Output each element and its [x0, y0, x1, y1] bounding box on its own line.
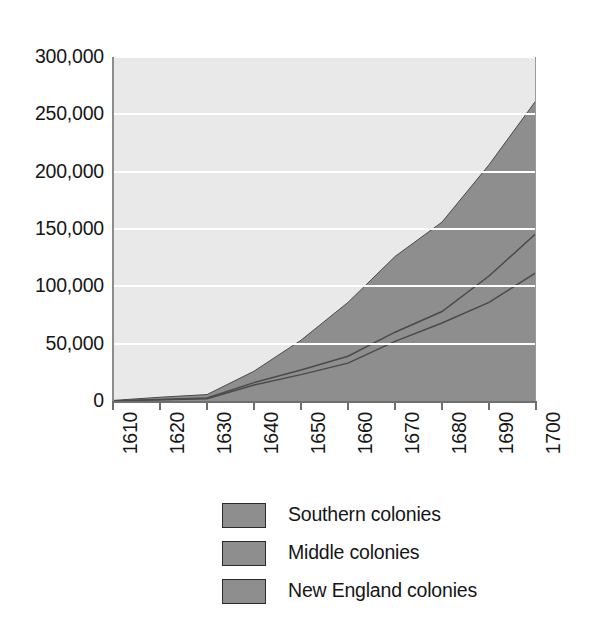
- gridline: [113, 228, 536, 230]
- chart-legend: Southern coloniesMiddle coloniesNew Engl…: [222, 496, 477, 610]
- gridline: [113, 285, 536, 287]
- x-axis-tick-mark: [394, 401, 395, 410]
- gridline: [113, 343, 536, 345]
- x-axis-tick-mark: [488, 401, 489, 410]
- x-axis-tick-mark: [112, 401, 113, 410]
- x-axis-line: [113, 401, 537, 403]
- legend-item: Middle colonies: [222, 534, 477, 572]
- y-axis-tick-label: 200,000: [8, 162, 104, 182]
- y-axis-tick-label: 50,000: [8, 334, 104, 354]
- y-axis-tick-label: 250,000: [8, 104, 104, 124]
- legend-swatch: [222, 503, 266, 528]
- x-axis-tick-mark: [300, 401, 301, 410]
- x-axis-tick-label: 1700: [544, 412, 564, 454]
- y-axis-tick-label: 0: [8, 391, 104, 411]
- legend-label: Southern colonies: [288, 505, 441, 525]
- x-axis-tick-label: 1610: [121, 412, 141, 454]
- legend-swatch: [222, 541, 266, 566]
- plot-right-border: [535, 57, 536, 402]
- legend-label: Middle colonies: [288, 543, 419, 563]
- legend-item: New England colonies: [222, 572, 477, 610]
- y-axis-tick-label: 100,000: [8, 276, 104, 296]
- y-axis-tick-label: 300,000: [8, 47, 104, 67]
- x-axis-tick-mark: [253, 401, 254, 410]
- x-axis-tick-mark: [206, 401, 207, 410]
- x-axis-tick-label: 1670: [403, 412, 423, 454]
- y-axis-labels: 050,000100,000150,000200,000250,000300,0…: [8, 0, 104, 626]
- x-axis-tick-mark: [159, 401, 160, 410]
- legend-swatch: [222, 579, 266, 604]
- x-axis-tick-label: 1650: [309, 412, 329, 454]
- x-axis-tick-label: 1640: [262, 412, 282, 454]
- x-axis-tick-label: 1660: [356, 412, 376, 454]
- legend-label: New England colonies: [288, 581, 477, 601]
- y-axis-tick-label: 150,000: [8, 219, 104, 239]
- x-axis-tick-mark: [347, 401, 348, 410]
- gridline: [113, 113, 536, 115]
- x-axis-tick-label: 1690: [497, 412, 517, 454]
- x-axis-tick-label: 1630: [215, 412, 235, 454]
- gridline: [113, 171, 536, 173]
- y-axis-line: [112, 57, 114, 402]
- population-growth-area-chart: 050,000100,000150,000200,000250,000300,0…: [0, 0, 591, 626]
- x-axis-tick-label: 1620: [168, 412, 188, 454]
- x-axis-tick-mark: [535, 401, 536, 410]
- x-axis-tick-mark: [441, 401, 442, 410]
- legend-item: Southern colonies: [222, 496, 477, 534]
- gridline: [113, 57, 536, 58]
- plot-area: [113, 57, 536, 401]
- x-axis-tick-label: 1680: [450, 412, 470, 454]
